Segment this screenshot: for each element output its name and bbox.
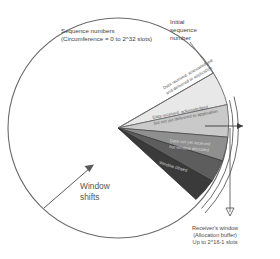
- window-bracket-arrow-upper: [237, 123, 243, 129]
- window-shifts-arrow-line: [44, 168, 90, 208]
- window-shifts-arrowhead: [85, 165, 95, 173]
- sequence-number-circle-diagram: [0, 0, 280, 259]
- figure-canvas: Sequence numbers (Circumference = 0 to 2…: [0, 0, 280, 259]
- initial-sequence-leader: [190, 42, 213, 73]
